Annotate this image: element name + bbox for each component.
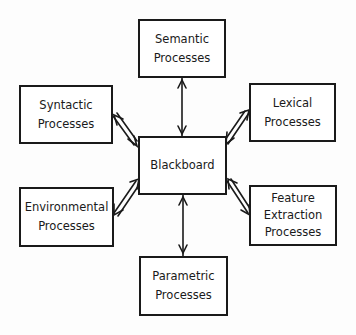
node-label: Environmental bbox=[25, 198, 109, 217]
blackboard-architecture-diagram: Semantic Processes Syntactic Processes L… bbox=[0, 0, 356, 335]
node-environmental-processes: Environmental Processes bbox=[19, 187, 114, 247]
arrow-feature-extraction bbox=[227, 179, 251, 215]
node-label: Processes bbox=[264, 113, 321, 132]
node-parametric-processes: Parametric Processes bbox=[139, 256, 228, 316]
node-blackboard: Blackboard bbox=[138, 136, 227, 195]
node-label: Processes bbox=[38, 217, 95, 236]
node-label: Extraction bbox=[264, 207, 323, 224]
node-label: Lexical bbox=[273, 94, 313, 113]
node-label: Blackboard bbox=[150, 156, 214, 175]
arrow-lexical bbox=[225, 110, 249, 144]
node-feature-extraction-processes: Feature Extraction Processes bbox=[249, 185, 337, 246]
arrow-syntactic bbox=[113, 113, 137, 146]
node-label: Semantic bbox=[155, 30, 209, 49]
node-label: Processes bbox=[38, 115, 95, 134]
node-lexical-processes: Lexical Processes bbox=[249, 83, 336, 142]
node-label: Parametric bbox=[152, 267, 214, 286]
node-label: Processes bbox=[154, 49, 211, 68]
node-syntactic-processes: Syntactic Processes bbox=[19, 85, 113, 144]
node-semantic-processes: Semantic Processes bbox=[138, 19, 226, 78]
node-label: Syntactic bbox=[39, 96, 92, 115]
arrow-environmental bbox=[114, 179, 139, 216]
node-label: Processes bbox=[155, 286, 212, 305]
node-label: Feature bbox=[271, 190, 314, 207]
node-label: Processes bbox=[265, 224, 322, 241]
